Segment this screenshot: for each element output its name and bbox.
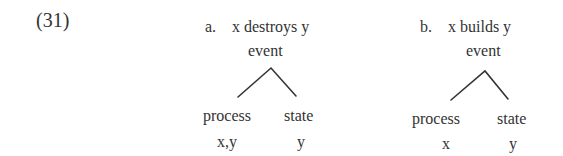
tree-a-branch — [238, 68, 296, 97]
tree-branches — [0, 0, 563, 156]
tree-b-branch — [451, 71, 508, 100]
